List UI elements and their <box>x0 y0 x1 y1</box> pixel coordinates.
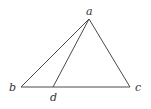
segment-ad <box>53 19 89 87</box>
triangle-diagram: a b c d <box>0 0 151 109</box>
segment-ab <box>21 19 89 87</box>
label-c: c <box>135 81 141 94</box>
segment-ac <box>89 19 130 87</box>
label-a: a <box>86 5 93 18</box>
label-b: b <box>9 81 16 94</box>
label-d: d <box>50 91 57 104</box>
